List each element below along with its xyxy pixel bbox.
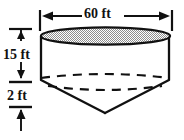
top-opening-ellipse <box>41 27 170 44</box>
width-dimension-label: 60 ft <box>84 7 111 21</box>
cone-height-dimension-group <box>9 107 32 131</box>
silo-diagram-svg <box>0 0 184 140</box>
width-left-arrowhead-icon <box>42 11 53 20</box>
cone-height-up-arrowhead-icon <box>17 109 26 119</box>
cylinder-height-down-arrowhead-icon <box>17 70 25 79</box>
cylinder-height-up-arrowhead-icon <box>17 31 25 40</box>
width-right-arrowhead-icon <box>159 11 170 20</box>
cylinder-height-dimension-label: 15 ft <box>3 48 30 62</box>
cone-height-dimension-label: 2 ft <box>7 89 27 103</box>
silo-diagram-figure: 60 ft 15 ft 2 ft <box>0 0 184 140</box>
